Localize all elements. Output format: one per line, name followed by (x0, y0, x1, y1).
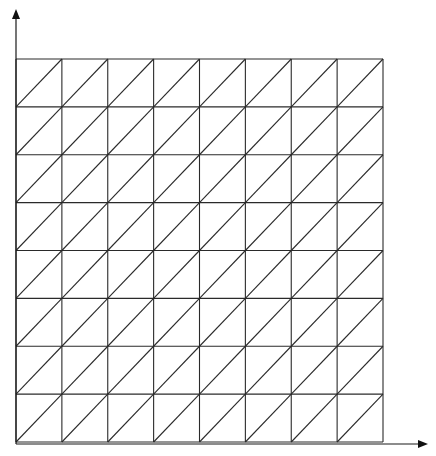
cell-diagonal-line (200, 394, 246, 442)
cell-diagonal-line (200, 298, 246, 346)
cell-diagonal-line (108, 346, 154, 394)
cell-diagonal-line (108, 59, 154, 107)
cell-diagonal-line (62, 346, 108, 394)
cell-diagonal-line (337, 251, 383, 299)
cell-diagonal-line (245, 107, 291, 155)
cell-diagonal-line (291, 394, 337, 442)
cell-diagonal-line (62, 394, 108, 442)
cell-diagonal-line (108, 298, 154, 346)
cell-diagonal-line (291, 251, 337, 299)
mesh-grid (16, 59, 383, 442)
cell-diagonal-line (291, 107, 337, 155)
cell-diagonal-line (200, 203, 246, 251)
cell-diagonal-line (200, 155, 246, 203)
cell-diagonal-line (108, 394, 154, 442)
cell-diagonal-line (200, 346, 246, 394)
cell-diagonal-line (291, 203, 337, 251)
cell-diagonal-line (16, 155, 62, 203)
y-axis-arrow-icon (12, 9, 20, 19)
cell-diagonal-line (16, 394, 62, 442)
cell-diagonal-line (245, 346, 291, 394)
cell-diagonal-line (154, 107, 200, 155)
cell-diagonal-line (245, 203, 291, 251)
cell-diagonal-line (245, 251, 291, 299)
cell-diagonal-line (200, 59, 246, 107)
cell-diagonal-line (62, 298, 108, 346)
cell-diagonal-line (337, 203, 383, 251)
cell-diagonal-line (291, 155, 337, 203)
cell-diagonal-line (245, 59, 291, 107)
cell-diagonal-line (154, 203, 200, 251)
cell-diagonal-line (154, 394, 200, 442)
cell-diagonal-line (154, 298, 200, 346)
x-axis-arrow-icon (418, 440, 428, 448)
cell-diagonal-line (62, 203, 108, 251)
cell-diagonal-line (16, 107, 62, 155)
cell-diagonal-line (16, 298, 62, 346)
cell-diagonal-line (154, 346, 200, 394)
cell-diagonal-line (245, 155, 291, 203)
cell-diagonal-line (108, 251, 154, 299)
cell-diagonal-line (108, 203, 154, 251)
cell-diagonal-line (16, 203, 62, 251)
cell-diagonal-line (337, 346, 383, 394)
cell-diagonal-line (108, 155, 154, 203)
cell-diagonal-line (337, 394, 383, 442)
cell-diagonal-line (62, 155, 108, 203)
cell-diagonal-line (337, 298, 383, 346)
cell-diagonal-line (245, 394, 291, 442)
cell-diagonal-line (62, 251, 108, 299)
cell-diagonal-line (200, 107, 246, 155)
cell-diagonal-line (291, 346, 337, 394)
cell-diagonal-line (154, 59, 200, 107)
cell-diagonal-line (291, 59, 337, 107)
cell-diagonal-line (337, 59, 383, 107)
cell-diagonal-line (154, 251, 200, 299)
cell-diagonal-line (200, 251, 246, 299)
cell-diagonal-line (108, 107, 154, 155)
cell-diagonal-line (154, 155, 200, 203)
cell-diagonal-line (16, 346, 62, 394)
cell-diagonal-line (16, 251, 62, 299)
cell-diagonal-line (337, 107, 383, 155)
cell-diagonal-line (291, 298, 337, 346)
cell-diagonal-line (62, 107, 108, 155)
cell-diagonal-line (62, 59, 108, 107)
cell-diagonal-line (16, 59, 62, 107)
cell-diagonal-line (245, 298, 291, 346)
triangular-mesh-diagram (0, 0, 436, 456)
cell-diagonal-line (337, 155, 383, 203)
